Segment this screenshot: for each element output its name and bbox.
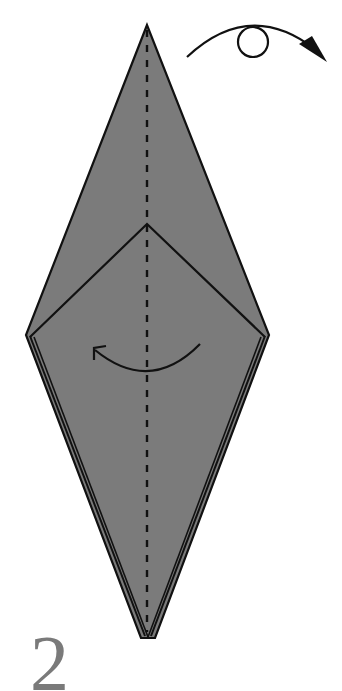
origami-diagram: 2 (0, 0, 342, 691)
turn-over-arrow-icon (187, 26, 327, 62)
step-number: 2 (30, 624, 69, 691)
